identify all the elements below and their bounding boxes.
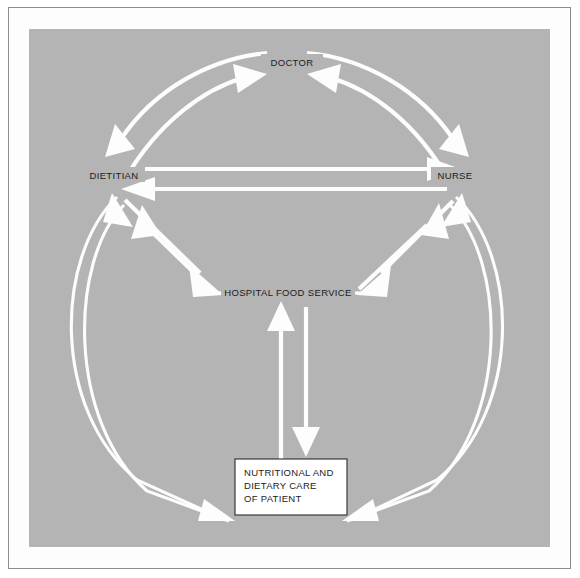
arrow-food-service-to-patient-care	[292, 307, 320, 457]
patient-care-line-3: OF PATIENT	[244, 493, 302, 504]
arrow-nurse-to-patient-care	[342, 197, 503, 521]
node-label-dietitian: DIETITIAN	[89, 170, 138, 181]
arrow-nurse-to-dietitian	[121, 177, 447, 201]
arrow-dietitian-to-nurse	[133, 157, 461, 181]
arrow-nurse-to-food-service	[357, 201, 453, 297]
figure-root: NUTRITIONAL AND DIETARY CARE OF PATIENT …	[0, 0, 580, 578]
node-label-doctor: DOCTOR	[270, 57, 313, 68]
patient-care-line-1: NUTRITIONAL AND	[244, 467, 334, 478]
patient-care-line-2: DIETARY CARE	[244, 480, 317, 491]
arrow-nurse-to-doctor	[307, 64, 448, 179]
relationship-diagram: NUTRITIONAL AND DIETARY CARE OF PATIENT …	[29, 29, 550, 547]
node-label-food-service: HOSPITAL FOOD SERVICE	[224, 287, 352, 298]
arrow-patient-care-to-dietitian	[85, 193, 229, 521]
arrow-dietitian-to-patient-care	[71, 197, 235, 521]
arrow-patient-care-to-food-service	[267, 301, 295, 466]
node-label-nurse: NURSE	[437, 170, 472, 181]
arrow-patient-care-to-nurse	[347, 193, 491, 521]
arrow-dietitian-to-doctor	[125, 64, 267, 179]
